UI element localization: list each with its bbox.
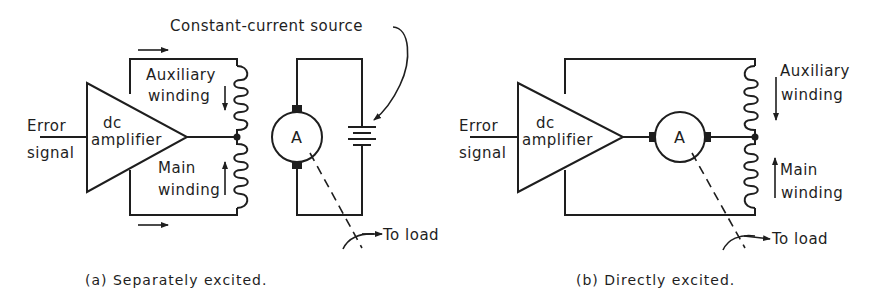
amplifier-label-a: amplifier (91, 131, 162, 149)
aux-winding-label1-a: Auxiliary (146, 66, 216, 84)
shaft-dashed-line-a (310, 153, 362, 248)
armature-bottom-wire-a (297, 145, 362, 215)
bottom-rail-b (565, 170, 755, 215)
motor-label-a: A (291, 128, 302, 147)
caption-a: (a) Separately excited. (85, 272, 267, 288)
caption-b: (b) Directly excited. (576, 272, 735, 288)
main-winding-label2-b: winding (781, 184, 843, 202)
brush-top-a (292, 105, 302, 112)
constant-current-source-label: Constant-current source (170, 17, 363, 35)
to-load-label-b: To load (771, 230, 828, 248)
main-coil-a (234, 137, 248, 208)
shaft-rotation-arc-a (343, 234, 374, 249)
error-label-a: Error (27, 117, 66, 135)
top-rail-b (565, 59, 755, 94)
brush-bottom-a (292, 162, 302, 169)
auxiliary-coil-a (234, 66, 248, 137)
junction-dot-b (752, 134, 759, 141)
auxiliary-coil-b (744, 66, 758, 137)
signal-label-b: signal (459, 144, 506, 162)
shaft-dashed-line-b (692, 153, 745, 248)
error-label-b: Error (459, 117, 498, 135)
to-load-arrow-b (744, 236, 770, 239)
source-pointer-arrow (374, 27, 408, 120)
aux-winding-label2-a: winding (148, 87, 210, 105)
brush-left-b (649, 132, 656, 142)
armature-top-wire-a (297, 59, 362, 127)
main-coil-b (744, 137, 758, 208)
aux-winding-label2-b: winding (781, 86, 843, 104)
circuit-diagram: Error signal dc amplifier Auxiliary wind… (0, 0, 882, 308)
main-winding-label1-a: Main (158, 159, 196, 177)
motor-label-b: A (674, 128, 685, 147)
amplifier-label-b: amplifier (522, 131, 593, 149)
junction-dot-a (234, 134, 241, 141)
amplifier-dc-label-b: dc (536, 114, 555, 132)
aux-winding-label1-b: Auxiliary (780, 62, 850, 80)
main-winding-label2-a: winding (158, 181, 220, 199)
panel-a-separately-excited: Error signal dc amplifier Auxiliary wind… (27, 17, 439, 288)
brush-right-b (704, 132, 711, 142)
to-load-label-a: To load (382, 226, 439, 244)
amplifier-dc-label-a: dc (103, 114, 122, 132)
signal-label-a: signal (27, 144, 74, 162)
main-winding-label1-b: Main (780, 161, 818, 179)
panel-b-directly-excited: Error signal dc amplifier A Auxiliary wi… (459, 59, 850, 288)
